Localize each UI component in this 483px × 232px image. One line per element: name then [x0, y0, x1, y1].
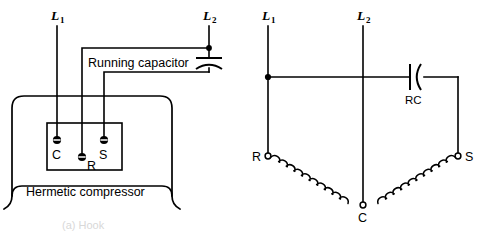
label-l2-left: L — [202, 8, 211, 23]
label-l1-right-subscript: 1 — [271, 15, 276, 25]
label-l2-left-subscript: 2 — [212, 15, 217, 25]
label-l1-left-subscript: 1 — [60, 15, 65, 25]
label-l2-right-subscript: 2 — [366, 15, 371, 25]
label-l1-left: L — [50, 8, 59, 23]
label-rc-capacitor: RC — [405, 94, 422, 106]
label-terminal-c: C — [52, 148, 61, 162]
label-running-capacitor: Running capacitor — [88, 56, 189, 70]
label-schematic-s: S — [465, 150, 473, 164]
wiring-diagram-figure: L 1 L 2 Running capacitor C R S Hermetic… — [0, 0, 483, 232]
figure-caption-partial: (a) Hook — [62, 219, 105, 231]
label-l1-right: L — [261, 8, 270, 23]
label-terminal-r: R — [87, 159, 96, 173]
label-l2-right: L — [356, 8, 365, 23]
label-schematic-r: R — [252, 150, 261, 164]
label-layer: L 1 L 2 Running capacitor C R S Hermetic… — [0, 0, 483, 232]
label-terminal-s: S — [99, 148, 107, 162]
label-hermetic-compressor: Hermetic compressor — [26, 185, 145, 199]
label-schematic-c: C — [358, 211, 367, 225]
